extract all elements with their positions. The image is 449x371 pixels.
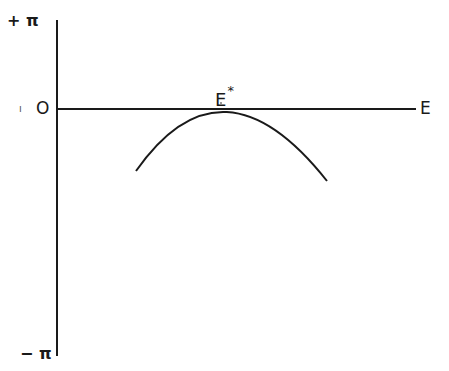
y-axis-top-label: + π (7, 13, 39, 29)
peak-label-base: E (215, 89, 226, 110)
phase-energy-diagram (0, 0, 449, 371)
peak-label: E* (215, 88, 234, 109)
zero-tick-mark: ı (19, 104, 22, 114)
y-axis-bottom-label: − π (20, 346, 52, 362)
parabola-curve (136, 112, 327, 181)
y-axis-zero-label: O (36, 100, 49, 117)
peak-label-star: * (227, 83, 234, 98)
x-axis-label: E (420, 100, 431, 117)
